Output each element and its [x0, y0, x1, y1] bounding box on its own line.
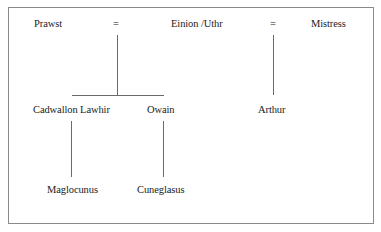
descent-line-prawst-einion [117, 35, 118, 95]
descent-line-einion-mistress [273, 35, 274, 95]
marriage-sign-2: = [270, 18, 276, 30]
node-owain: Owain [147, 104, 175, 116]
node-prawst: Prawst [34, 18, 62, 30]
node-einion-uthr: Einion /Uthr [171, 18, 223, 30]
sibling-bar [72, 95, 164, 96]
descent-line-owain [163, 121, 164, 177]
node-maglocunus: Maglocunus [47, 184, 98, 196]
node-cuneglasus: Cuneglasus [137, 184, 184, 196]
descent-line-cadwallon [71, 121, 72, 177]
marriage-sign-1: = [113, 18, 119, 30]
node-cadwallon-lawhir: Cadwallon Lawhir [33, 104, 110, 116]
node-mistress: Mistress [311, 18, 346, 30]
node-arthur: Arthur [258, 104, 285, 116]
